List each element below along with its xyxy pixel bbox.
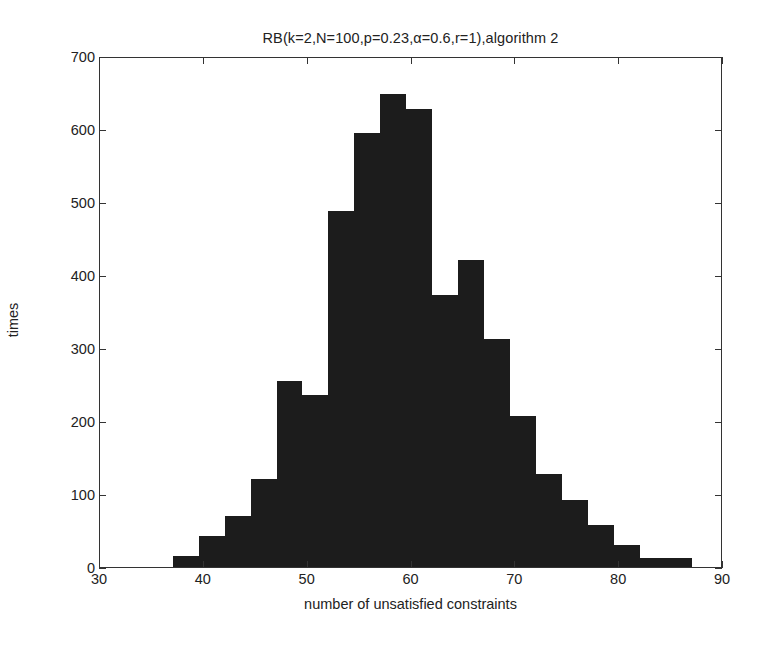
x-tick-mark bbox=[722, 561, 723, 568]
y-tick-label: 400 bbox=[35, 268, 95, 284]
histogram-bar bbox=[588, 525, 614, 567]
x-tick-mark bbox=[411, 561, 412, 568]
histogram-bar bbox=[302, 395, 328, 567]
histogram-bar bbox=[251, 479, 277, 567]
histogram-bar bbox=[666, 558, 692, 567]
y-tick-mark bbox=[99, 422, 106, 423]
histogram-bar bbox=[536, 474, 562, 567]
y-tick-label: 700 bbox=[35, 49, 95, 65]
y-tick-mark-right bbox=[715, 276, 722, 277]
x-tick-label: 80 bbox=[593, 571, 643, 587]
y-tick-mark-right bbox=[715, 57, 722, 58]
y-tick-mark-right bbox=[715, 422, 722, 423]
y-tick-mark bbox=[99, 203, 106, 204]
histogram-bar bbox=[432, 295, 458, 567]
x-tick-mark bbox=[203, 561, 204, 568]
x-tick-mark bbox=[307, 561, 308, 568]
y-tick-mark bbox=[99, 495, 106, 496]
histogram-bar bbox=[510, 416, 536, 567]
x-tick-label: 70 bbox=[489, 571, 539, 587]
x-tick-label: 30 bbox=[74, 571, 124, 587]
y-tick-mark bbox=[99, 130, 106, 131]
histogram-bar bbox=[458, 260, 484, 567]
figure-canvas: RB(k=2,N=100,p=0.23,α=0.6,r=1),algorithm… bbox=[0, 0, 763, 646]
x-tick-mark-top bbox=[203, 57, 204, 64]
y-tick-mark bbox=[99, 276, 106, 277]
x-axis-title: number of unsatisfied constraints bbox=[99, 596, 722, 612]
y-tick-label: 200 bbox=[35, 414, 95, 430]
histogram-bar bbox=[173, 556, 199, 567]
histogram-bar bbox=[406, 109, 432, 567]
x-tick-mark bbox=[99, 561, 100, 568]
x-tick-label: 90 bbox=[697, 571, 747, 587]
x-tick-label: 50 bbox=[282, 571, 332, 587]
y-tick-mark-right bbox=[715, 568, 722, 569]
y-tick-mark-right bbox=[715, 495, 722, 496]
x-tick-mark-top bbox=[618, 57, 619, 64]
x-tick-mark bbox=[618, 561, 619, 568]
y-tick-label: 500 bbox=[35, 195, 95, 211]
x-tick-label: 60 bbox=[386, 571, 436, 587]
histogram-bar bbox=[380, 94, 406, 567]
x-tick-label: 40 bbox=[178, 571, 228, 587]
x-tick-mark-top bbox=[411, 57, 412, 64]
histogram-bar bbox=[562, 500, 588, 567]
x-tick-mark-top bbox=[99, 57, 100, 64]
y-tick-mark-right bbox=[715, 130, 722, 131]
histogram-bar bbox=[354, 133, 380, 567]
y-tick-mark bbox=[99, 57, 106, 58]
histogram-bar bbox=[484, 339, 510, 567]
histogram-bar bbox=[277, 381, 303, 567]
y-tick-mark-right bbox=[715, 203, 722, 204]
y-tick-mark bbox=[99, 568, 106, 569]
y-tick-label: 300 bbox=[35, 341, 95, 357]
plot-area bbox=[99, 57, 722, 568]
x-tick-mark-top bbox=[514, 57, 515, 64]
x-tick-mark bbox=[514, 561, 515, 568]
page-title: RB(k=2,N=100,p=0.23,α=0.6,r=1),algorithm… bbox=[99, 30, 722, 46]
y-tick-label: 600 bbox=[35, 122, 95, 138]
y-axis-title: times bbox=[5, 303, 21, 338]
histogram-bar bbox=[640, 558, 666, 567]
histogram-bar bbox=[328, 211, 354, 567]
histogram-bar bbox=[225, 516, 251, 567]
x-tick-mark-top bbox=[307, 57, 308, 64]
y-tick-label: 100 bbox=[35, 487, 95, 503]
y-tick-mark bbox=[99, 349, 106, 350]
histogram-bars bbox=[100, 58, 721, 567]
x-tick-mark-top bbox=[722, 57, 723, 64]
y-tick-mark-right bbox=[715, 349, 722, 350]
